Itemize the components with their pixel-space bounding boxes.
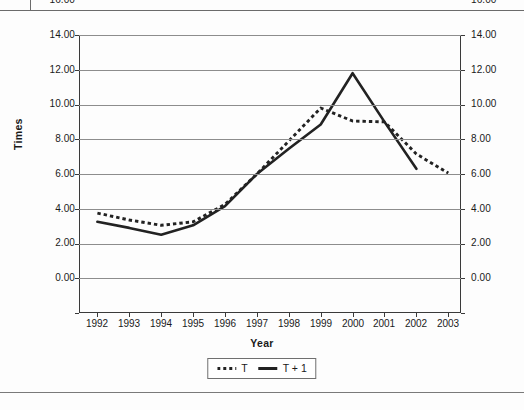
y-axis-tick-label: 4.00	[29, 204, 75, 214]
y-axis-tick	[75, 139, 79, 140]
y-axis-tick	[461, 174, 465, 175]
x-axis-tick-label: 1996	[214, 318, 236, 329]
y-axis-tick	[75, 105, 79, 106]
y-axis-tick	[461, 313, 465, 314]
x-axis-tick	[225, 313, 226, 317]
x-axis-tick	[321, 313, 322, 317]
x-axis-tick	[416, 313, 417, 317]
y-axis-tick	[461, 209, 465, 210]
y-axis-tick-label: 8.00	[29, 134, 75, 144]
legend-label-t-plus-1: T + 1	[283, 362, 307, 374]
x-axis-tick	[257, 313, 258, 317]
y-axis-tick-label: 8.00	[471, 134, 517, 144]
line-chart: Times 16.0014.0012.0010.008.006.004.002.…	[0, 0, 524, 410]
y-axis-tick-label: 0.00	[471, 273, 517, 283]
x-axis-tick-label: 1992	[86, 318, 108, 329]
x-axis-tick-label: 1999	[310, 318, 332, 329]
x-axis-labels: 1992199319941995199619971998199920002001…	[79, 318, 461, 332]
x-axis-tick-label: 1995	[182, 318, 204, 329]
legend-item-t: T	[217, 362, 247, 374]
plot-area	[79, 35, 461, 313]
x-axis-tick-label: 2000	[342, 318, 364, 329]
x-axis-tick	[161, 313, 162, 317]
x-axis-tick-label: 2003	[437, 318, 459, 329]
y-axis-tick-label: 16.00	[29, 0, 75, 5]
x-axis-tick	[193, 313, 194, 317]
y-axis-tick	[461, 278, 465, 279]
gridline	[79, 139, 461, 140]
y-axis-tick-label: 6.00	[471, 169, 517, 179]
y-axis-tick-label: 12.00	[29, 65, 75, 75]
y-axis-tick-label: 10.00	[471, 99, 517, 109]
gridline	[79, 209, 461, 210]
y-axis-tick	[75, 174, 79, 175]
series-line-t-plus-1	[97, 73, 416, 235]
y-axis-tick-label: 0.00	[29, 273, 75, 283]
legend-item-t-plus-1: T + 1	[259, 362, 307, 374]
x-axis-tick-label: 1994	[150, 318, 172, 329]
y-axis-tick-label: 14.00	[29, 30, 75, 40]
y-axis-tick-label: 4.00	[471, 204, 517, 214]
y-axis-tick-label: 12.00	[471, 65, 517, 75]
x-axis-tick	[129, 313, 130, 317]
x-axis-tick-label: 1993	[118, 318, 140, 329]
x-axis-tick	[97, 313, 98, 317]
y-axis-tick	[75, 209, 79, 210]
gridline	[79, 244, 461, 245]
y-axis-title: Times	[12, 118, 24, 150]
x-axis-title: Year	[0, 337, 524, 349]
y-axis-tick-label: 10.00	[29, 99, 75, 109]
y-axis-tick	[75, 244, 79, 245]
x-axis-tick-label: 2002	[405, 318, 427, 329]
x-axis-tick	[353, 313, 354, 317]
legend-label-t: T	[241, 362, 247, 374]
y-axis-tick	[75, 70, 79, 71]
page-background: Times 16.0014.0012.0010.008.006.004.002.…	[0, 0, 524, 410]
y-axis-tick-label: 14.00	[471, 30, 517, 40]
y-axis-tick	[461, 70, 465, 71]
x-axis-tick	[289, 313, 290, 317]
y-axis-tick-label: 2.00	[29, 238, 75, 248]
y-axis-tick	[75, 313, 79, 314]
chart-legend: T T + 1	[207, 358, 316, 379]
solid-line-swatch-icon	[259, 367, 278, 370]
y-axis-labels-left: 16.0014.0012.0010.008.006.004.002.000.00	[29, 0, 75, 278]
y-axis-tick	[461, 244, 465, 245]
y-axis-tick	[75, 35, 79, 36]
gridline	[79, 35, 461, 36]
y-axis-tick	[461, 105, 465, 106]
x-axis-tick-label: 1998	[278, 318, 300, 329]
y-axis-tick	[75, 278, 79, 279]
y-axis-tick-label: 16.00	[471, 0, 517, 5]
dotted-line-swatch-icon	[217, 367, 236, 370]
gridline	[79, 70, 461, 71]
gridline	[79, 174, 461, 175]
x-axis-tick-label: 1997	[246, 318, 268, 329]
x-axis-tick	[448, 313, 449, 317]
y-axis-tick	[461, 35, 465, 36]
y-axis-tick-label: 6.00	[29, 169, 75, 179]
y-axis-labels-right: 16.0014.0012.0010.008.006.004.002.000.00	[471, 0, 517, 278]
y-axis-tick	[461, 139, 465, 140]
gridline	[79, 278, 461, 279]
gridline	[79, 105, 461, 106]
y-axis-tick-label: 2.00	[471, 238, 517, 248]
x-axis-line	[79, 312, 461, 313]
x-axis-tick-label: 2001	[373, 318, 395, 329]
series-line-t	[97, 108, 448, 225]
x-axis-tick	[384, 313, 385, 317]
